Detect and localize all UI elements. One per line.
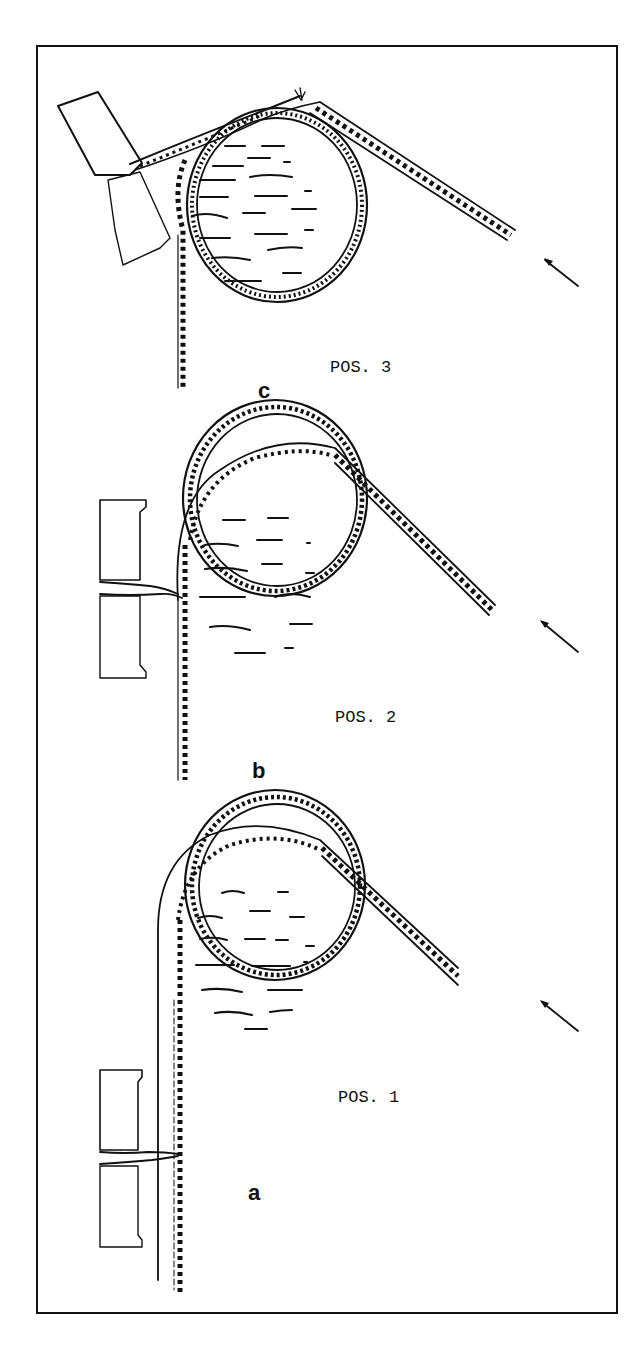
feed-direction-arrow-icon: [542, 1002, 578, 1031]
incoming-belt: [310, 102, 515, 240]
liquid-lines-icon: [196, 891, 314, 1029]
panel-c: POS. 3 c: [58, 88, 578, 403]
web-strand: [174, 920, 180, 1292]
liquid-lines-icon: [192, 146, 316, 281]
figure-frame: [37, 46, 617, 1313]
panel-a: POS. 1 a: [100, 790, 578, 1292]
cylinder: [185, 790, 365, 1029]
position-label: POS. 1: [338, 1088, 399, 1107]
panel-b: POS. 2 b: [100, 400, 578, 783]
panel-letter: b: [252, 758, 265, 783]
clamp-jaws: [100, 500, 182, 678]
web-strand: [178, 545, 185, 780]
position-label: POS. 3: [330, 358, 391, 377]
feed-direction-arrow-icon: [542, 622, 578, 652]
incoming-belt: [158, 826, 458, 1280]
diagram-canvas: POS. 3 c: [0, 0, 644, 1357]
position-label: POS. 2: [335, 708, 396, 727]
torn-web: [130, 88, 320, 170]
web-strand: [178, 160, 185, 388]
figure-stage: POS. 3 c: [0, 0, 644, 1357]
cylinder: [183, 400, 367, 653]
incoming-belt: [177, 443, 495, 615]
panel-letter: a: [248, 1180, 261, 1205]
clamp-jaws: [58, 92, 170, 265]
clamp-jaws: [100, 1070, 178, 1247]
liquid-lines-icon: [200, 518, 314, 653]
